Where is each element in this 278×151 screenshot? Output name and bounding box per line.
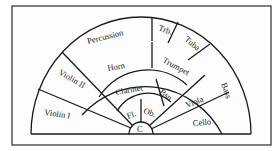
- label-conductor: C: [137, 124, 143, 134]
- orchestra-seating-diagram: Violin I Violin II Percussion Horn Clari…: [0, 0, 278, 151]
- label-cello: Cello: [192, 116, 211, 128]
